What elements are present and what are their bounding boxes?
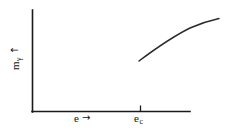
mass-curve (139, 19, 219, 62)
right-arrow-icon: → (82, 112, 90, 123)
x-axis-tick-label-ec: ec (134, 113, 143, 124)
y-axis-label-subscript: γ (15, 57, 23, 61)
plot-canvas (0, 0, 227, 136)
x-axis-label: e→ (74, 113, 90, 124)
critical-coupling-subscript: c (139, 117, 143, 126)
figure-container: mγ↑ e→ ec (0, 0, 227, 136)
x-axis-label-symbol: e (74, 112, 79, 124)
y-axis-label: mγ↑ (2, 34, 28, 82)
y-axis-label-symbol: m (10, 61, 21, 70)
up-arrow-icon: ↑ (10, 46, 20, 54)
